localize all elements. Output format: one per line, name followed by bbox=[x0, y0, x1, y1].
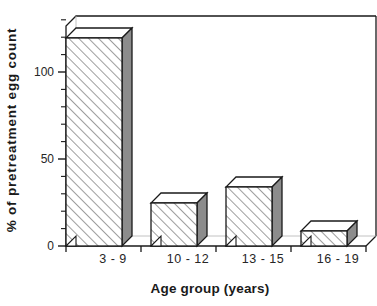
y-axis-ticks bbox=[58, 20, 66, 246]
bar-3-9[interactable] bbox=[66, 28, 132, 246]
bar-13-15[interactable] bbox=[226, 177, 282, 246]
x-axis-ticks bbox=[66, 246, 366, 252]
chart-figure: % of pretreatment egg count 0 50 100 3 -… bbox=[0, 0, 377, 306]
plot-area bbox=[0, 0, 377, 306]
